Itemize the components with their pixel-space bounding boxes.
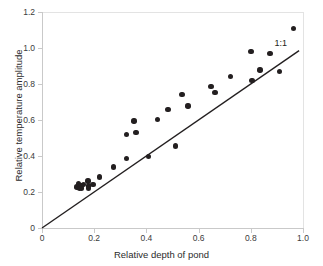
x-axis-line [42,228,304,229]
data-point [165,107,170,112]
y-tick-label: 1.2 [11,8,35,17]
data-point [179,92,184,97]
y-tick-label: 0 [11,224,35,233]
x-tick-label: 0.2 [79,234,109,243]
data-point [228,74,233,79]
x-tick-label: 1.0 [288,234,318,243]
x-tick-label: 0.4 [131,234,161,243]
data-point [257,67,262,72]
one-to-one-reference-line [42,12,303,228]
data-point [212,90,217,95]
data-point [248,49,253,54]
data-point [291,26,296,31]
data-point [185,103,190,108]
data-point [173,143,178,148]
data-point [131,118,136,123]
plot-right-border [303,12,304,229]
x-tick-label: 0.8 [236,234,266,243]
data-point [267,51,272,56]
data-point [249,78,254,83]
plot-area: 1:1 [42,12,303,228]
x-axis-title: Relative depth of pond [0,249,323,260]
x-tick-label: 0.6 [184,234,214,243]
x-tick-label: 0 [27,234,57,243]
data-point [208,84,213,89]
data-point [111,164,116,169]
one-to-one-label: 1:1 [274,38,287,48]
scatter-chart-figure: 00.20.40.60.81.01.2 00.20.40.60.81.0 1:1… [0,0,323,266]
y-axis-title: Relative temperature amplitude [13,36,24,196]
